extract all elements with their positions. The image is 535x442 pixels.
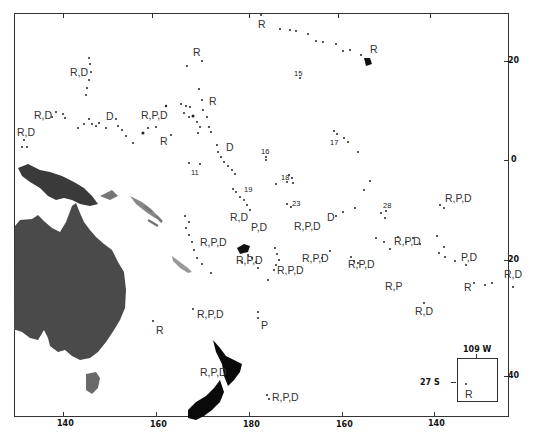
number-label: 17 xyxy=(330,139,338,147)
new-caledonia-landmass xyxy=(172,256,192,273)
site-label: D xyxy=(106,111,114,122)
tasmania-landmass xyxy=(86,372,100,394)
site-label: R,P,D xyxy=(236,255,263,266)
hawaii-landmass xyxy=(364,58,372,66)
site-label: R,P,D xyxy=(277,265,304,276)
y-axis-label: 20 xyxy=(508,256,519,264)
fiji-landmass xyxy=(237,244,250,254)
inset-lon-label: 109 W xyxy=(463,346,491,354)
site-label: R xyxy=(464,282,472,293)
site-label: R,P,D xyxy=(272,392,299,403)
x-axis-label: 160 xyxy=(336,421,353,429)
australia-landmass xyxy=(14,203,126,360)
right-tick xyxy=(504,160,509,161)
site-label: R xyxy=(193,47,201,58)
site-label: R xyxy=(258,19,266,30)
site-label: R,D xyxy=(34,110,52,121)
x-axis-label: 140 xyxy=(57,420,74,428)
bottom-tick xyxy=(63,412,64,417)
number-label: 16 xyxy=(261,148,269,156)
site-label: R,D xyxy=(504,269,522,280)
top-tick xyxy=(152,13,153,18)
site-label: R,D xyxy=(70,67,88,78)
bottom-tick xyxy=(156,412,157,417)
site-label: D xyxy=(327,212,335,223)
y-axis-label: 0 xyxy=(511,156,517,164)
site-label: R,P,D xyxy=(197,309,224,320)
site-label: R,P xyxy=(385,281,403,292)
site-label: R,P,D xyxy=(302,253,329,264)
site-label: R,P,D xyxy=(200,237,227,248)
number-label: 18 xyxy=(281,174,289,182)
site-label: R,P,D xyxy=(141,110,168,121)
number-label: 28 xyxy=(383,202,391,210)
site-label: R,P,D xyxy=(394,236,421,247)
site-label: R,D xyxy=(17,127,35,138)
x-axis-label: 140 xyxy=(428,420,445,428)
y-axis-label: 40 xyxy=(508,372,519,380)
site-label: R,D xyxy=(415,306,433,317)
site-label: R,D xyxy=(230,212,248,223)
site-label: R xyxy=(156,325,164,336)
top-tick xyxy=(430,13,431,18)
x-axis-label: 180 xyxy=(243,421,260,429)
site-label: D xyxy=(226,142,234,153)
inset-tick xyxy=(476,354,477,358)
y-axis-label: 20 xyxy=(508,57,519,65)
site-label: R xyxy=(370,44,378,55)
x-axis-label: 160 xyxy=(150,421,167,429)
number-label: 11 xyxy=(191,169,199,177)
inset-tick xyxy=(451,382,456,383)
bottom-tick xyxy=(434,412,435,417)
top-tick xyxy=(338,13,339,18)
nz-south-island xyxy=(188,380,224,420)
new-guinea-landmass xyxy=(18,164,98,206)
site-label: R xyxy=(209,96,217,107)
site-label: R,P,D xyxy=(348,259,375,270)
bottom-tick xyxy=(249,412,250,417)
top-tick xyxy=(249,13,250,18)
site-label: R xyxy=(160,136,168,147)
site-label: P,D xyxy=(251,222,267,233)
site-label: R,P,D xyxy=(294,221,321,232)
nz-north-island xyxy=(213,340,242,386)
pacific-map: 140 160 180 160 140 20 0 20 40 109 W 27 … xyxy=(0,0,535,442)
site-label: R,P,D xyxy=(445,193,472,204)
number-label: 23 xyxy=(292,200,300,208)
bottom-tick xyxy=(342,412,343,417)
inset-lat-label: 27 S xyxy=(420,379,440,387)
number-label: 19 xyxy=(244,186,252,194)
number-label: 15 xyxy=(294,70,302,78)
site-label: R,P,D xyxy=(200,367,227,378)
site-label: P,D xyxy=(461,252,477,263)
easter-island-inset xyxy=(457,358,498,402)
inset-site-label: R xyxy=(465,389,473,400)
site-label: P xyxy=(261,320,268,331)
top-tick xyxy=(63,13,64,18)
